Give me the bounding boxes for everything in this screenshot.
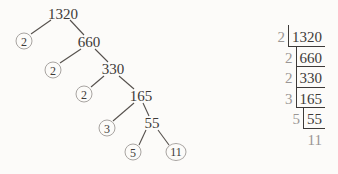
tree-edge-165-3	[113, 103, 134, 121]
tree-edge-660-2	[60, 49, 81, 63]
ladder-dividend: 330	[296, 66, 326, 88]
ladder-divisor: 2	[285, 66, 296, 87]
ladder-dividend: 1320	[288, 25, 325, 47]
ladder-row: 2 330	[285, 66, 325, 87]
ladder-divisor: 3	[285, 87, 296, 108]
tree-prime-11: 11	[166, 143, 187, 161]
tree-prime-3: 3	[99, 120, 116, 137]
ladder-row-final: 11	[308, 128, 325, 149]
tree-edge-55-11	[158, 130, 169, 145]
ladder-dividend: 165	[296, 87, 326, 109]
tree-node-165: 165	[130, 89, 153, 104]
tree-node-330: 330	[102, 62, 125, 77]
ladder-dividend: 660	[296, 46, 326, 68]
tree-prime-5: 5	[125, 144, 142, 161]
prime-factorization-figure: 1320 2 660 2 330 2 165 3 55 5 11 2 1320 …	[0, 0, 338, 174]
ladder-row: 2 660	[285, 46, 325, 67]
ladder-row: 2 1320	[278, 25, 326, 46]
tree-prime-2-second: 2	[45, 62, 62, 79]
tree-edge-1320-2	[31, 20, 51, 34]
tree-node-660: 660	[78, 35, 101, 50]
tree-prime-2-first: 2	[16, 33, 33, 50]
ladder-row: 3 165	[285, 87, 325, 108]
ladder-divisor: 2	[285, 46, 296, 67]
tree-node-55: 55	[145, 116, 160, 131]
tree-edge-330-2	[91, 76, 104, 87]
tree-prime-2-third: 2	[76, 86, 93, 103]
ladder-row: 5 55	[293, 107, 326, 128]
division-ladder: 2 1320 2 660 2 330 3 165 5 55 11	[278, 25, 326, 148]
ladder-dividend: 55	[303, 107, 325, 129]
tree-edge-55-5	[139, 130, 146, 145]
ladder-divisor: 5	[293, 107, 304, 128]
ladder-final-quotient: 11	[308, 128, 325, 149]
ladder-divisor: 2	[278, 25, 289, 46]
tree-node-1320: 1320	[48, 7, 78, 22]
